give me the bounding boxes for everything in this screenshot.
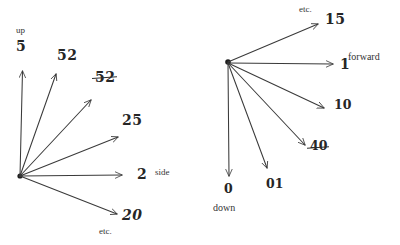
left-etc-label: etc. — [99, 227, 112, 236]
left-ray-label-up: 5 — [16, 39, 26, 53]
right-ray-label-d2: 40 — [310, 140, 327, 153]
right-ray-down — [228, 63, 229, 176]
left-axis-label-side: side — [155, 168, 170, 177]
right-ray-forward — [228, 63, 333, 64]
figure-canvas: up 5 52 52 25 2 side 20 etc. etc. 15 1 f… — [0, 0, 400, 245]
left-axis-label-up: up — [16, 26, 25, 35]
left-ray-up — [20, 71, 23, 176]
left-ray-lower — [20, 176, 117, 214]
right-etc-label: etc. — [299, 5, 312, 14]
left-ray-label-side: 2 — [137, 167, 147, 181]
right-ray-label-d1: 10 — [334, 99, 351, 112]
vector-diagram-svg — [0, 0, 400, 245]
right-ray-up-right — [228, 24, 318, 62]
left-ray-label-upper-1: 52 — [57, 48, 77, 62]
left-ray-upper-2 — [20, 100, 91, 176]
left-ray-upper-1 — [20, 74, 56, 176]
right-axis-label-forward: forward — [348, 52, 380, 62]
right-ray-label-down: 0 — [224, 183, 233, 196]
left-ray-side — [20, 175, 122, 176]
right-ray-d2 — [228, 63, 305, 145]
left-ray-label-upper-2: 52 — [95, 70, 115, 84]
right-ray-label-up-right: 15 — [325, 12, 345, 26]
right-axis-label-down: down — [213, 203, 235, 213]
left-fan-group — [17, 71, 122, 214]
left-ray-mid — [20, 137, 118, 176]
right-ray-label-d2-text: 40 — [310, 140, 327, 153]
left-ray-label-mid: 25 — [122, 113, 142, 127]
right-ray-label-d3: 01 — [266, 178, 283, 191]
left-ray-label-lower: 20 — [122, 208, 142, 222]
left-ray-label-upper-2-text: 52 — [95, 70, 115, 84]
right-fan-group — [225, 24, 333, 176]
